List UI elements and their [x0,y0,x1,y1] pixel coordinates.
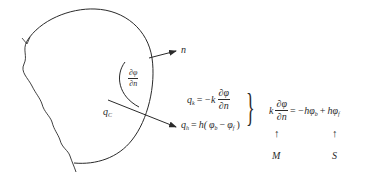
gradient-label: ∂φ ∂n [127,69,139,88]
qh-phi1-sub: b [215,125,218,131]
combined-coef: k [269,106,273,116]
matrix-label: M [272,151,280,161]
combined-term2: hφ [328,105,339,116]
flux-sub: C [108,112,112,118]
conduction-flux-label: qC [103,107,112,117]
combined-term1-sub: b [315,111,318,117]
normal-label: n [181,45,186,55]
qh-prefix: h( [199,120,207,130]
diagram-canvas [0,0,368,175]
normal-arrow [149,51,176,58]
qh-sub: h [186,125,189,131]
source-up-arrow: ↑ [332,128,338,139]
qk-sub: k [192,100,195,106]
equation-brace: } [246,88,255,128]
matrix-up-arrow: ↑ [274,128,280,139]
combined-eq: = [290,106,296,116]
qh-minus: − [220,120,226,130]
combined-plus: + [320,106,326,116]
equation-qk: qk = −k ∂φ ∂n [186,88,231,111]
qk-num: ∂φ [218,88,230,100]
combined-term2-sub: f [338,111,340,117]
qk-fraction: ∂φ ∂n [218,88,230,111]
qk-den: ∂n [219,100,229,111]
qh-phi2: φ [227,119,233,130]
combined-fraction: ∂φ ∂n [275,99,287,122]
gradient-denominator: ∂n [129,79,137,88]
equation-qh: qh = h( φb − φf ) [180,120,241,130]
source-label: S [332,151,337,161]
combined-term1: −hφ [298,105,315,116]
qk-coef: −k [204,95,215,105]
gradient-fraction: ∂φ ∂n [128,69,138,88]
combined-den: ∂n [277,111,287,122]
qh-eq: = [191,120,197,130]
gradient-numerator: ∂φ [128,69,138,79]
wavy-cut-edge [23,41,76,172]
qk-eq: = [197,95,203,105]
equation-combined: k ∂φ ∂n = −hφb + hφf [268,99,341,122]
qh-phi1: φ [209,119,215,130]
qh-suffix: ) [236,120,239,130]
combined-num: ∂φ [275,99,287,111]
